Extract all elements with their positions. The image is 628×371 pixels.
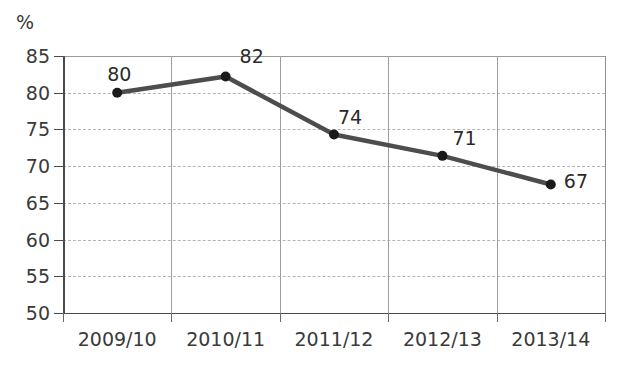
y-axis-tick bbox=[54, 276, 63, 277]
line-series bbox=[63, 56, 605, 313]
x-axis-tick bbox=[280, 313, 281, 322]
y-axis-label: 80 bbox=[26, 83, 50, 102]
x-axis-tick bbox=[171, 313, 172, 322]
x-axis-label: 2012/13 bbox=[403, 330, 482, 349]
x-axis-tick bbox=[63, 313, 64, 322]
data-value-label: 74 bbox=[338, 108, 362, 127]
x-axis-tick bbox=[497, 313, 498, 322]
data-point-marker bbox=[221, 72, 231, 82]
gridline-horizontal bbox=[63, 313, 605, 314]
y-axis-label: 50 bbox=[26, 304, 50, 323]
data-value-label: 80 bbox=[107, 65, 131, 84]
gridline-vertical bbox=[605, 56, 606, 313]
data-point-marker bbox=[329, 130, 339, 140]
y-axis-tick bbox=[54, 203, 63, 204]
y-axis-label: 75 bbox=[26, 120, 50, 139]
data-value-label: 71 bbox=[452, 129, 476, 148]
plot-area: 8580757065605550 2009/102010/112011/1220… bbox=[63, 56, 605, 313]
y-axis-tick bbox=[54, 129, 63, 130]
data-point-marker bbox=[112, 88, 122, 98]
data-point-marker bbox=[437, 151, 447, 161]
y-axis-tick bbox=[54, 240, 63, 241]
y-axis-label: 70 bbox=[26, 157, 50, 176]
y-axis-tick bbox=[54, 166, 63, 167]
y-axis-unit-label: % bbox=[16, 13, 34, 32]
y-axis-tick bbox=[54, 93, 63, 94]
y-axis-tick bbox=[54, 56, 63, 57]
y-axis-label: 55 bbox=[26, 267, 50, 286]
x-axis-tick bbox=[605, 313, 606, 322]
data-point-marker bbox=[546, 180, 556, 190]
data-value-label: 67 bbox=[564, 172, 588, 191]
x-axis-label: 2009/10 bbox=[78, 330, 157, 349]
data-value-label: 82 bbox=[240, 47, 264, 66]
x-axis-label: 2011/12 bbox=[295, 330, 374, 349]
chart-screenshot: % 8580757065605550 2009/102010/112011/12… bbox=[0, 0, 628, 371]
x-axis-label: 2010/11 bbox=[186, 330, 265, 349]
y-axis-tick bbox=[54, 313, 63, 314]
y-axis-label: 85 bbox=[26, 47, 50, 66]
x-axis-label: 2013/14 bbox=[511, 330, 590, 349]
x-axis-tick bbox=[388, 313, 389, 322]
y-axis-label: 65 bbox=[26, 193, 50, 212]
y-axis-label: 60 bbox=[26, 230, 50, 249]
